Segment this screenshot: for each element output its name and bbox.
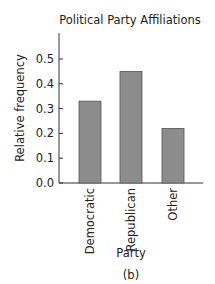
y-tick-label: 0.2 [36,126,54,140]
x-axis-label: Party [116,246,146,260]
y-axis-label: Relative frequency [13,54,27,162]
figure-caption: (b) [123,268,139,282]
y-tick-label: 0.1 [36,151,54,165]
chart-title: Political Party Affiliations [59,13,200,27]
bar-republican [120,71,142,183]
bars [79,71,184,183]
x-axis-tick-labels: DemocraticRepublicanOther [83,188,180,255]
y-tick-label: 0.3 [36,102,54,116]
x-tick-label-republican: Republican [124,188,138,252]
y-tick-label: 0.4 [36,77,54,91]
bar-democratic [79,101,101,183]
bar-chart: Political Party Affiliations 0.00.10.20.… [0,0,215,284]
bar-other [162,128,184,183]
y-tick-label: 0.5 [36,52,54,66]
x-tick-label-democratic: Democratic [83,188,97,254]
x-tick-label-other: Other [166,188,180,221]
y-tick-label: 0.0 [36,176,54,190]
chart-canvas: Political Party Affiliations 0.00.10.20.… [0,0,215,284]
